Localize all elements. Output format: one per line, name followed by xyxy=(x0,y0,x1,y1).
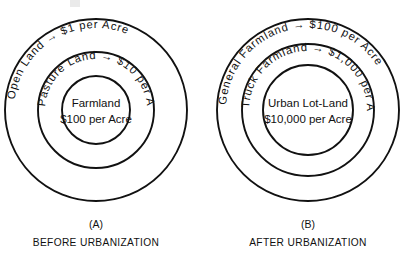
panel-b-inner-ring xyxy=(263,65,353,155)
panel-a-caption: BEFORE URBANIZATION xyxy=(33,237,159,248)
panel-b-letter: (B) xyxy=(301,218,315,230)
panel-a-center-label-line1: Farmland xyxy=(72,97,121,109)
panel-a-letter: (A) xyxy=(89,218,103,230)
panel-b-caption: AFTER URBANIZATION xyxy=(249,237,367,248)
panel-b-middle-ring-label: Truck Farmland → $1,000 per Acre xyxy=(0,0,377,112)
panel-a-center-label-line2: $100 per Acre xyxy=(60,113,132,125)
panel-b-center-label-line1: Urban Lot-Land xyxy=(268,97,348,109)
land-value-ring-diagram: Open Land → $1 per Acre Pasture Land → $… xyxy=(0,0,410,253)
panel-a: Open Land → $1 per Acre Pasture Land → $… xyxy=(0,0,187,248)
panel-a-inner-ring xyxy=(62,76,130,144)
panel-b-center-label-line2: $10,000 per Acre xyxy=(264,113,352,125)
